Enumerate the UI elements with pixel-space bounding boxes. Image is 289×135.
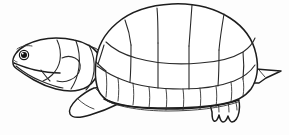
turtle-shell — [95, 4, 257, 111]
turtle-illustration — [0, 0, 289, 135]
illustration-canvas: Line drawing of a turtle in side profile… — [0, 0, 289, 135]
turtle-eye — [19, 50, 28, 59]
